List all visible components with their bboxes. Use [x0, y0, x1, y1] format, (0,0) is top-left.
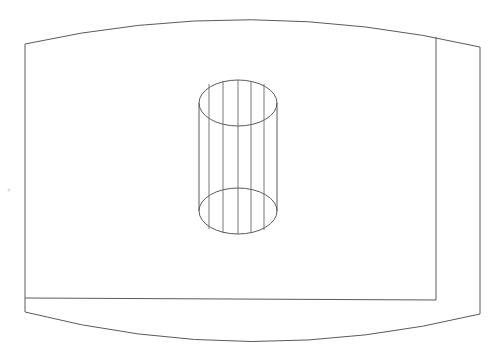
- drawing-canvas: [0, 0, 503, 354]
- cylinder: [199, 80, 277, 234]
- stray-mark: [8, 189, 11, 192]
- wireframe-drawing: [0, 0, 503, 354]
- plate-inner-horizontal-line: [25, 298, 436, 300]
- plate-bottom-edge: [25, 312, 480, 342]
- plate-top-edge: [25, 20, 480, 47]
